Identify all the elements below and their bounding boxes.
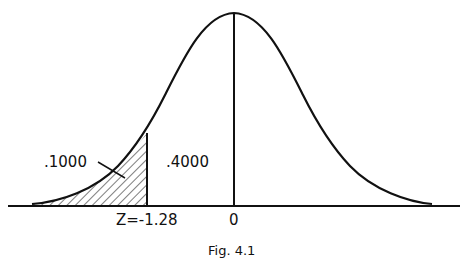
unshaded-area-label: .4000	[166, 155, 209, 170]
figure-caption: Fig. 4.1	[208, 244, 255, 257]
shaded-area-label: .1000	[44, 155, 87, 170]
bell-curve	[32, 13, 432, 204]
z-value-label: Z=-1.28	[116, 213, 178, 228]
mean-label: 0	[229, 213, 239, 228]
